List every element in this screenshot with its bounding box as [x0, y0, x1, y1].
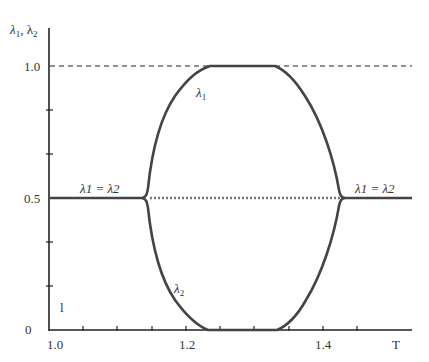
- x-tick-label-12: 1.2: [179, 337, 195, 352]
- y-tick-label-05: 0.5: [24, 191, 40, 206]
- y-tick-label-0: 0: [25, 322, 32, 337]
- y-axis-label: λ1, λ2: [9, 22, 37, 39]
- chart-canvas: λ1, λ2 1.0 0.5 0 1.0 1.2 1.4 T λ1 = λ2 λ…: [0, 0, 429, 362]
- stray-mark: l: [60, 300, 64, 315]
- x-tick-label-14: 1.4: [315, 337, 332, 352]
- annotation-lambda1: λ1: [195, 85, 206, 102]
- series-lambda1: [142, 66, 345, 198]
- annotation-lambda2: λ2: [173, 281, 184, 298]
- y-tick-label-1: 1.0: [24, 59, 40, 74]
- x-axis-label: T: [392, 337, 400, 352]
- series-lambda2: [142, 198, 345, 330]
- x-tick-label-10: 1.0: [47, 337, 63, 352]
- annotation-equal-left: λ1 = λ2: [79, 181, 120, 196]
- annotation-equal-right: λ1 = λ2: [354, 181, 395, 196]
